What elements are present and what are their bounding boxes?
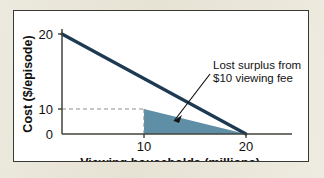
chart-plot-area: 20 10 0 10 20 Lost surplus from $10 view… — [14, 11, 308, 161]
lost-surplus-region — [144, 109, 246, 134]
x-tick-label-10: 10 — [137, 139, 151, 154]
y-tick-label-10: 10 — [39, 102, 53, 117]
chart-card: 20 10 0 10 20 Lost surplus from $10 view… — [13, 10, 309, 162]
lost-surplus-note-line2: $10 viewing fee — [213, 72, 293, 84]
x-axis-title: Viewing households (millions) — [80, 156, 260, 161]
x-tick-label-20: 20 — [239, 139, 253, 154]
y-tick-label-20: 20 — [39, 27, 53, 42]
lost-surplus-note-line1: Lost surplus from — [213, 59, 301, 71]
y-axis-title: Cost ($/episode) — [21, 35, 35, 132]
y-tick-label-0: 0 — [46, 127, 53, 142]
figure-root: 20 10 0 10 20 Lost surplus from $10 view… — [0, 0, 324, 178]
